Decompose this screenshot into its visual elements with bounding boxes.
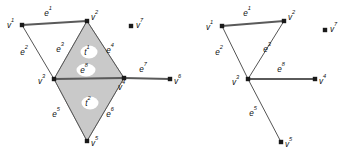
edge-label-e2: e2 (20, 44, 29, 57)
complex-diagram-svg: t1t2e1e2e3e4e5e6e7e8v1v2v3v4v5v6v7e1e2e3… (0, 0, 354, 156)
vertex-dot-v2[interactable] (85, 19, 89, 23)
edge-e1[interactable] (22, 21, 87, 25)
vertex-dot-v1[interactable] (20, 23, 24, 27)
vertex-label-v3: v3 (232, 74, 240, 87)
shaded-complex: t1t2e1e2e3e4e5e6e7e8v1v2v3v4v5v6v7 (7, 5, 182, 148)
edge-e2[interactable] (222, 26, 248, 79)
vertex-label-v2: v2 (91, 9, 99, 22)
vertex-label-v5: v5 (91, 135, 99, 148)
edge-label-e8: e8 (277, 61, 286, 74)
edge-e2[interactable] (22, 25, 54, 79)
edge-label-e4: e4 (106, 42, 114, 55)
vertex-label-v1: v1 (7, 17, 14, 30)
figure-root: t1t2e1e2e3e4e5e6e7e8v1v2v3v4v5v6v7e1e2e3… (0, 0, 354, 156)
vertex-label-v7: v7 (330, 21, 338, 34)
edge-e1[interactable] (222, 21, 284, 26)
vertex-label-v2: v2 (288, 9, 296, 22)
edge-e8[interactable] (54, 78, 124, 79)
edge-e7[interactable] (124, 78, 170, 79)
vertex-label-v1: v1 (206, 19, 213, 32)
edge-label-e7: e7 (139, 61, 148, 74)
edge-label-e2: e2 (215, 44, 224, 57)
edge-label-e5: e5 (52, 106, 61, 119)
vertex-dot-v5[interactable] (279, 140, 283, 144)
edge-label-e3: e3 (263, 41, 272, 54)
vertex-dot-v3[interactable] (52, 77, 56, 81)
vertex-label-v7: v7 (136, 17, 144, 30)
vertex-label-v4: v4 (319, 73, 326, 86)
edge-label-e6: e6 (106, 106, 115, 119)
vertex-dot-v3[interactable] (246, 77, 250, 81)
vertex-dot-v1[interactable] (220, 24, 224, 28)
edge-label-e3: e3 (56, 41, 65, 54)
edge-skeleton: e1e2e3e5e8v1v2v3v4v5v7 (206, 5, 338, 149)
edge-label-e1: e1 (243, 5, 251, 18)
vertex-dot-v4[interactable] (313, 77, 317, 81)
vertex-dot-v5[interactable] (85, 139, 89, 143)
vertex-label-v5: v5 (285, 136, 293, 149)
vertex-label-v3: v3 (38, 73, 46, 86)
vertex-label-v6: v6 (174, 73, 182, 86)
vertex-dot-v7[interactable] (129, 24, 133, 28)
edge-label-e5: e5 (249, 105, 258, 118)
vertex-dot-v2[interactable] (282, 19, 286, 23)
edge-label-e1: e1 (44, 5, 52, 18)
vertex-dot-v7[interactable] (323, 28, 327, 32)
vertex-dot-v6[interactable] (168, 77, 172, 81)
